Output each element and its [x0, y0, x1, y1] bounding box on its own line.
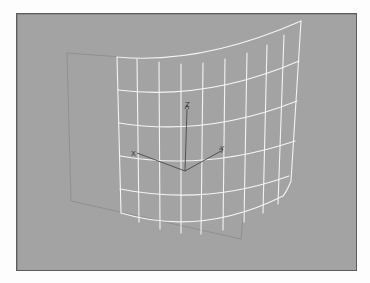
z-axis-line	[185, 109, 187, 171]
y-axis-label: Y	[219, 145, 225, 153]
3d-viewport[interactable]: Z X Y	[16, 13, 357, 271]
x-axis-label: X	[131, 150, 136, 158]
x-axis-line	[137, 153, 185, 171]
scene-canvas[interactable]: Z X Y	[17, 14, 356, 270]
z-axis-label: Z	[185, 101, 190, 109]
wireframe-mesh[interactable]	[117, 21, 301, 234]
reference-plane	[67, 53, 244, 239]
page: Z X Y	[0, 0, 370, 283]
